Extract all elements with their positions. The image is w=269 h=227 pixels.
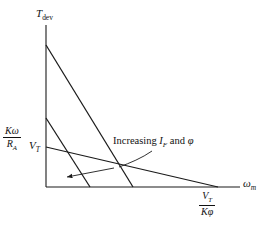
komega-numerator: Kω xyxy=(3,126,21,136)
kphi-denominator: Kφ xyxy=(199,207,215,217)
torque-speed-figure: Tdev ωm VT Kω RA VT Kφ Increasing IF and… xyxy=(0,0,269,227)
annotation-phi-symbol: φ xyxy=(188,135,194,146)
vt-over-kphi-label: VT Kφ xyxy=(199,191,215,217)
y-axis-label-sub: dev xyxy=(42,13,53,22)
vt-tick-main: V xyxy=(29,139,36,151)
vt-numerator-sub: T xyxy=(208,196,212,203)
increasing-direction-arrow xyxy=(67,168,114,177)
x-axis-label-main: ω xyxy=(243,177,251,189)
series-line-low-flux xyxy=(46,147,218,187)
ra-denominator-sub: A xyxy=(13,144,17,151)
series-line-high-flux xyxy=(46,45,133,187)
vt-tick-sub: T xyxy=(36,145,40,154)
increasing-field-annotation: Increasing IF and φ xyxy=(113,136,193,149)
y-axis-label: Tdev xyxy=(36,8,53,22)
plot-canvas xyxy=(0,0,269,227)
x-axis-label: ωm xyxy=(243,178,256,192)
annotation-text-tail: and xyxy=(167,135,187,146)
annotation-text-lead: Increasing xyxy=(113,135,159,146)
vt-axis-tick-label: VT xyxy=(29,140,40,154)
x-axis-label-sub: m xyxy=(251,183,256,192)
komega-over-ra-label: Kω RA xyxy=(3,126,21,152)
